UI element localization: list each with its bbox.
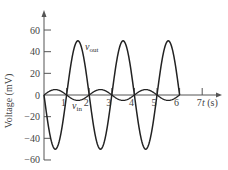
y-axis-arrow-icon — [42, 10, 47, 17]
x-axis-label-text: t (s) — [202, 97, 218, 109]
x-axis-label: t (s) — [202, 97, 218, 109]
y-tick-label: −20 — [24, 111, 40, 122]
y-tick-label: 0 — [35, 90, 40, 101]
x-tick-label: 7 — [197, 97, 202, 108]
y-axis: 6040200−20−40−60 — [24, 10, 51, 165]
voltage-chart: 6040200−20−40−60 1234567 Voltage (mV) t … — [0, 0, 228, 170]
y-tick-label: −40 — [24, 133, 40, 144]
label-v-out: vout — [85, 41, 98, 54]
y-tick-label: 20 — [30, 68, 40, 79]
y-tick-label: 40 — [30, 46, 40, 57]
y-axis-label: Voltage (mV) — [3, 74, 15, 129]
y-tick-label: 60 — [30, 25, 40, 36]
label-v-in: vin — [72, 100, 82, 113]
y-tick-label: −60 — [24, 154, 40, 165]
